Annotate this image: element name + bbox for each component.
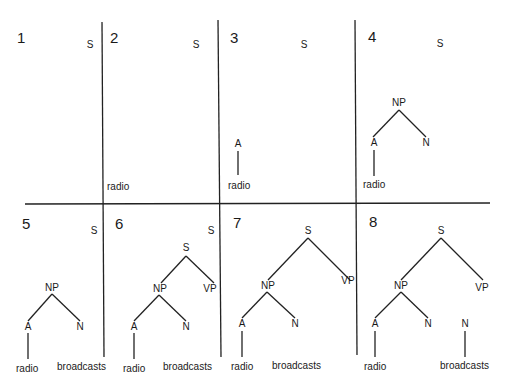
panel-7-s-node: S — [305, 226, 312, 236]
panel-4-s-node: S — [437, 39, 444, 49]
panel-8-a-node: A — [372, 319, 379, 329]
vertical-divider-1 — [102, 22, 104, 357]
panel-6-s-corner: S — [208, 226, 215, 236]
panel-5-a-node: A — [25, 322, 32, 332]
diagram-lines — [0, 0, 507, 391]
panel-8-n-node: N — [424, 319, 431, 329]
panel-8-word-broadcasts: broadcasts — [440, 361, 489, 371]
panel-6-n-node: N — [182, 322, 189, 332]
panel-2-s-node: S — [193, 40, 200, 50]
panel-7-word-broadcasts: broadcasts — [272, 361, 321, 371]
panel-4-n-node: N — [422, 138, 429, 148]
panel-8-word-radio: radio — [364, 362, 386, 372]
panel-7-vp-node: VP — [341, 276, 354, 286]
panel-5-np-node: NP — [45, 283, 59, 293]
panel-5-word-broadcasts: broadcasts — [57, 362, 106, 372]
panel-5-s-node: S — [91, 226, 98, 236]
panel-3-word-radio: radio — [228, 181, 250, 191]
panel-7-a-node: A — [239, 319, 246, 329]
panel-3-number: 3 — [230, 30, 238, 45]
panel-6-s-node: S — [183, 243, 190, 253]
panel-6-np-node: NP — [153, 284, 167, 294]
panel-6-word-radio: radio — [123, 364, 145, 374]
panel-6-vp-node: VP — [203, 284, 216, 294]
panel-1-number: 1 — [17, 30, 25, 45]
panel-8-vp-node: VP — [475, 283, 488, 293]
panel-7-word-radio: radio — [231, 362, 253, 372]
vertical-divider-3 — [355, 20, 357, 355]
panel-7-np-node: NP — [261, 281, 275, 291]
horizontal-divider — [25, 203, 490, 204]
panel-7-number: 7 — [233, 215, 241, 230]
panel-5-word-radio: radio — [16, 364, 38, 374]
panel-2-word-radio: radio — [107, 182, 129, 192]
panel-1-s-node: S — [87, 40, 94, 50]
panel-5-n-node: N — [76, 322, 83, 332]
panel-6-word-broadcasts: broadcasts — [163, 362, 212, 372]
panel-7-n-node: N — [291, 319, 298, 329]
panel-3-s-node: S — [301, 40, 308, 50]
panel-8-np-node: NP — [394, 281, 408, 291]
panel-4-number: 4 — [368, 29, 376, 44]
panel-8-s-node: S — [438, 226, 445, 236]
panel-3-a-node: A — [235, 139, 242, 149]
panel-4-word-radio: radio — [363, 180, 385, 190]
panel-6-number: 6 — [115, 216, 123, 231]
panel-2-number: 2 — [110, 30, 118, 45]
panel-4-np-node: NP — [392, 98, 406, 108]
vertical-divider-2 — [218, 20, 221, 357]
panel-5-number: 5 — [22, 216, 30, 231]
panel-6-a-node: A — [131, 322, 138, 332]
panel-4-a-node: A — [371, 138, 378, 148]
panel-8-n2-node: N — [461, 319, 468, 329]
panel-8-number: 8 — [369, 214, 377, 229]
